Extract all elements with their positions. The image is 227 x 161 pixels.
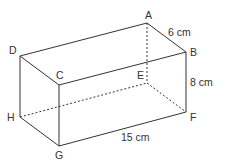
vertex-label-F: F bbox=[190, 111, 196, 123]
edge-DA bbox=[20, 23, 147, 56]
vertex-label-A: A bbox=[145, 9, 152, 21]
vertex-label-C: C bbox=[56, 69, 64, 81]
hidden-edge-EF bbox=[147, 83, 186, 112]
vertex-label-D: D bbox=[9, 44, 17, 56]
edge-HG bbox=[20, 117, 59, 146]
dimension-width-label: 6 cm bbox=[168, 26, 191, 38]
vertex-label-E: E bbox=[137, 69, 144, 81]
dimension-length-label: 15 cm bbox=[121, 131, 150, 143]
edge-DC bbox=[20, 56, 59, 85]
edge-CB bbox=[59, 52, 186, 85]
hidden-edge-HE bbox=[20, 83, 147, 117]
vertex-label-B: B bbox=[190, 46, 197, 58]
cuboid-diagram: A B C D E F G H 6 cm 8 cm 15 cm bbox=[0, 0, 227, 161]
dimension-height-label: 8 cm bbox=[190, 76, 213, 88]
vertex-label-G: G bbox=[55, 149, 63, 161]
vertex-label-H: H bbox=[7, 111, 15, 123]
